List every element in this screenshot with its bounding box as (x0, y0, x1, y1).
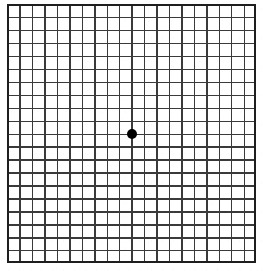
amsler-grid-chart (0, 0, 263, 271)
central-fixation-dot (127, 129, 137, 139)
